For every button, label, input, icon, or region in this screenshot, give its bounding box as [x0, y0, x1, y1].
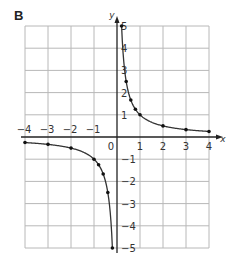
data-point — [138, 113, 142, 117]
data-point — [124, 80, 128, 84]
y-tick-label: −2 — [121, 176, 136, 187]
y-tick-label: −1 — [121, 154, 136, 165]
data-point — [46, 143, 50, 147]
x-tick-label: −1 — [86, 124, 101, 135]
data-point — [23, 141, 27, 145]
origin-label: 0 — [108, 141, 114, 152]
curve-negative-branch — [25, 143, 112, 248]
y-tick-label: 1 — [121, 110, 127, 121]
x-tick-label: −3 — [40, 124, 55, 135]
data-point — [184, 128, 188, 132]
y-tick-label: −3 — [121, 199, 136, 210]
data-point — [92, 157, 96, 161]
data-point — [106, 191, 110, 195]
y-axis-label: y — [108, 10, 115, 20]
data-point — [69, 146, 73, 150]
y-tick-label: −5 — [121, 243, 136, 254]
x-tick-label: 4 — [206, 141, 212, 152]
data-point — [120, 24, 124, 28]
data-point — [207, 130, 211, 134]
data-point — [101, 172, 105, 176]
y-tick-label: 2 — [121, 88, 127, 99]
data-point — [111, 246, 115, 250]
x-tick-label: 2 — [160, 141, 166, 152]
data-point — [161, 124, 165, 128]
curve-positive-branch — [122, 26, 209, 131]
y-axis-arrow-icon — [115, 16, 120, 23]
y-tick-label: −4 — [121, 221, 136, 232]
data-point — [134, 107, 138, 111]
x-tick-label: −4 — [17, 124, 32, 135]
reciprocal-function-chart: −4−3−2−1123454321−1−2−3−4−50xy — [0, 0, 231, 261]
x-tick-label: −2 — [63, 124, 78, 135]
data-point — [129, 98, 133, 102]
x-tick-label: 1 — [137, 141, 143, 152]
x-axis-label: x — [219, 134, 226, 144]
data-point — [97, 163, 101, 167]
x-tick-label: 3 — [183, 141, 189, 152]
